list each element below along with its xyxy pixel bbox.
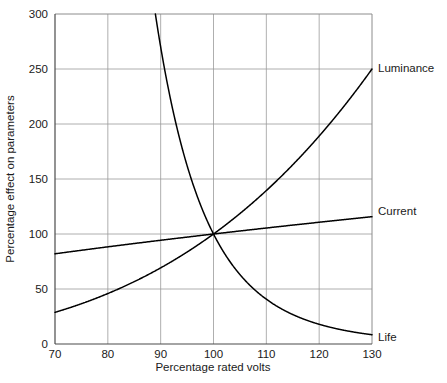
x-tick-label-100: 100	[204, 348, 223, 360]
x-tick-label-90: 90	[154, 348, 167, 360]
x-tick-label-80: 80	[101, 348, 114, 360]
chart-figure: 708090100110120130 050100150200250300 Pe…	[0, 0, 447, 383]
y-tick-label-300: 300	[29, 8, 48, 20]
x-tick-label-110: 110	[257, 348, 275, 360]
y-tick-label-150: 150	[29, 173, 48, 185]
y-tick-label-50: 50	[35, 283, 48, 295]
x-tick-label-70: 70	[49, 348, 62, 360]
series-label-luminance: Luminance	[378, 62, 434, 74]
chart-background	[0, 0, 447, 383]
x-axis-title: Percentage rated volts	[155, 361, 270, 373]
y-tick-label-100: 100	[29, 228, 48, 240]
y-axis-title: Percentage effect on parameters	[4, 95, 16, 263]
y-tick-label-250: 250	[29, 63, 48, 75]
series-label-current: Current	[378, 205, 417, 217]
x-tick-label-120: 120	[310, 348, 329, 360]
y-tick-label-200: 200	[29, 118, 48, 130]
series-label-life: Life	[378, 331, 397, 343]
x-tick-label-130: 130	[362, 348, 381, 360]
chart-canvas: 708090100110120130 050100150200250300 Pe…	[0, 0, 447, 383]
y-tick-label-0: 0	[42, 338, 48, 350]
